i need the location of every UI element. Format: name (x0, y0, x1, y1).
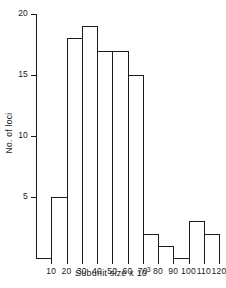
x-tick-70 (143, 259, 144, 264)
y-tick-label-20: 20 (18, 8, 28, 18)
x-axis-label-exponent: 3 (147, 266, 151, 273)
histogram-figure: No. of loci 5101520 10203040506070809010… (0, 0, 226, 288)
x-tick-110 (204, 259, 205, 264)
x-tick-20 (67, 259, 68, 264)
x-tick-90 (173, 259, 174, 264)
x-tick-50 (112, 259, 113, 264)
y-axis-line (36, 14, 37, 259)
y-tick-20: 20 (31, 14, 36, 15)
x-tick-10 (51, 259, 52, 264)
x-tick-30 (82, 259, 83, 264)
plot-area: 5101520 102030405060708090100110120 (36, 14, 220, 260)
bar-80-90 (158, 246, 174, 259)
bar-110-120 (204, 234, 220, 259)
x-tick-120 (219, 259, 220, 264)
x-tick-40 (97, 259, 98, 264)
bar-40-50 (97, 51, 113, 259)
bar-30-40 (82, 26, 98, 259)
y-tick-label-15: 15 (18, 69, 28, 79)
y-axis-label-text: No. of loci (4, 90, 14, 176)
bar-70-80 (143, 234, 159, 259)
bar-100-110 (189, 221, 205, 259)
bar-10-20 (51, 197, 67, 259)
y-tick-label-5: 5 (23, 191, 28, 201)
x-tick-100 (189, 259, 190, 264)
y-tick-5: 5 (31, 197, 36, 198)
bar-20-30 (67, 38, 83, 259)
x-axis-label: Subunit size x 103 (0, 268, 226, 278)
x-tick-80 (158, 259, 159, 264)
y-axis-label: No. of loci (0, 0, 18, 288)
y-tick-label-10: 10 (18, 130, 28, 140)
bar-50-60 (112, 51, 128, 259)
bar-60-70 (128, 75, 144, 259)
x-tick-60 (128, 259, 129, 264)
y-tick-15: 15 (31, 75, 36, 76)
x-axis-label-text: Subunit size x 10 (75, 268, 147, 278)
y-tick-10: 10 (31, 136, 36, 137)
